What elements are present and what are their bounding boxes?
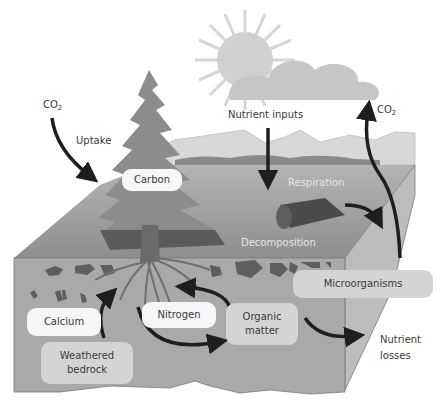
respiration-label: Respiration bbox=[288, 176, 344, 189]
decomposition-label: Decomposition bbox=[241, 236, 316, 249]
microorganisms-box: Microorganisms bbox=[293, 270, 433, 298]
carbon-box: Carbon bbox=[122, 169, 182, 191]
calcium-box: Calcium bbox=[27, 308, 101, 336]
organic-matter-box: Organicmatter bbox=[226, 303, 298, 345]
nutrient-inputs-label: Nutrient inputs bbox=[228, 108, 303, 121]
co2-right-label: CO2 bbox=[377, 103, 396, 120]
uptake-label: Uptake bbox=[76, 134, 111, 147]
weathered-bedrock-box: Weatheredbedrock bbox=[41, 342, 133, 384]
nitrogen-box: Nitrogen bbox=[142, 302, 216, 328]
co2-left-label: CO2 bbox=[43, 98, 62, 115]
uptake-arrow bbox=[52, 118, 90, 176]
nutrient-losses-label: Nutrientlosses bbox=[380, 332, 421, 364]
